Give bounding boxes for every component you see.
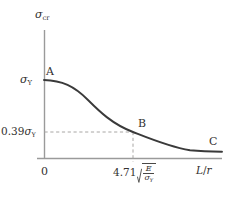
fraction-e-over-sigma-yield: E σY bbox=[143, 165, 154, 183]
x-axis-title: L/r bbox=[196, 165, 212, 176]
x-tick-label-critical-slenderness: 4.71 E σY bbox=[113, 163, 156, 183]
y-axis-title: σcr bbox=[35, 9, 50, 20]
point-label-a: A bbox=[46, 66, 54, 77]
point-label-c: C bbox=[209, 136, 217, 147]
radical-hook-icon bbox=[137, 168, 142, 183]
y-tick-label-sigma-yield: σY bbox=[20, 74, 32, 85]
fraction-numerator: E bbox=[143, 165, 154, 174]
x-tick-label-origin: 0 bbox=[41, 166, 48, 177]
y-tick-label-039-sigma-yield: 0.39σY bbox=[1, 126, 36, 137]
fraction-denominator: σY bbox=[143, 173, 154, 183]
point-label-b: B bbox=[138, 118, 146, 129]
buckling-stress-figure: σcr σY 0.39σY 0 4.71 E σY L/r A B C bbox=[0, 0, 228, 197]
radical-sign: E σY bbox=[137, 163, 156, 183]
